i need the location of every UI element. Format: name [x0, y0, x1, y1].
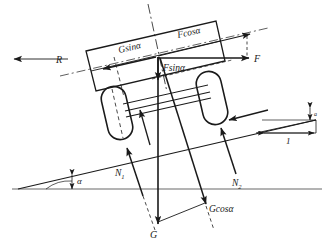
- force-label-N1: N1: [114, 168, 125, 180]
- N1-line-of-action-dashed: [143, 196, 155, 230]
- force-arrow-Fcos-alpha: [158, 34, 250, 56]
- front-wheel: [99, 84, 136, 142]
- angle-label: α: [77, 176, 82, 186]
- front-wheel-centre-dash: [112, 89, 123, 138]
- force-label-F: F: [253, 53, 261, 64]
- rear-wheel: [194, 69, 231, 127]
- slope-rise-label: a: [314, 111, 317, 117]
- free-body-diagram-svg: α a 1 R Gsinα Fcosα F Fsi: [0, 0, 334, 246]
- force-arrow-Gsin-alpha: [103, 57, 156, 69]
- force-arrow-front-contact: [140, 110, 150, 145]
- force-arrow-rear-traction: [229, 110, 268, 120]
- force-label-N2: N2: [231, 178, 242, 190]
- diagram-canvas: α a 1 R Gsinα Fcosα F Fsi: [0, 0, 334, 246]
- weight-component-parallelogram-edge: [158, 203, 205, 222]
- force-label-R: R: [55, 54, 62, 65]
- force-arrow-N2: [221, 128, 236, 174]
- incline-surface-line: [18, 120, 316, 189]
- force-label-G: G: [150, 229, 157, 240]
- slope-run-label: 1: [286, 136, 291, 146]
- force-arrow-Gcos-alpha: [160, 58, 206, 204]
- force-label-Gcos-alpha: Gcosα: [209, 204, 235, 214]
- force-label-Fcos-alpha: Fcosα: [175, 25, 202, 40]
